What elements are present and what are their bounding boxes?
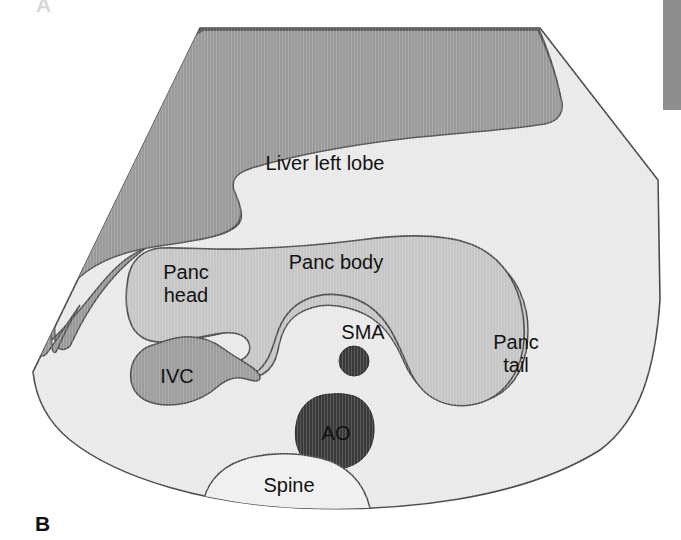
sma-shape xyxy=(339,346,369,376)
label-panc-body: Panc body xyxy=(289,251,384,273)
label-panc-tail-line2: tail xyxy=(503,354,529,376)
label-ivc: IVC xyxy=(160,365,193,387)
label-ao: AO xyxy=(322,422,351,444)
label-panc-head-line2: head xyxy=(164,284,209,306)
panel-letter-ghost: A xyxy=(36,0,51,15)
label-liver-left-lobe: Liver left lobe xyxy=(266,152,385,174)
panel-letter: B xyxy=(35,513,51,534)
label-panc-tail-line1: Panc xyxy=(493,331,539,353)
figure-root: Liver left lobe Panc body Panc head Panc… xyxy=(0,0,681,540)
label-panc-head-line1: Panc xyxy=(163,261,209,283)
sma-group xyxy=(339,346,369,376)
label-sma: SMA xyxy=(341,321,385,343)
ultrasound-schematic-svg: Liver left lobe Panc body Panc head Panc… xyxy=(0,0,681,540)
scan-edge-artifact-bar xyxy=(663,0,681,110)
label-spine: Spine xyxy=(263,474,314,496)
